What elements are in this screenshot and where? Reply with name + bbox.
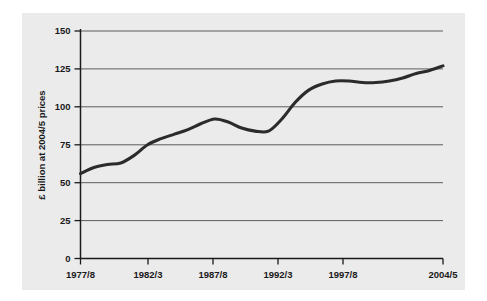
y-tick-label: 50	[60, 177, 71, 188]
y-axis-label: £ billion at 2004/5 prices	[36, 90, 47, 199]
y-tick-label: 100	[55, 101, 71, 112]
y-tick-label: 25	[60, 215, 71, 226]
x-tick-label: 1992/3	[263, 269, 292, 280]
y-tick-label: 75	[60, 139, 71, 150]
x-tick-group: 1977/81982/31987/81992/31997/82004/5	[66, 259, 458, 280]
y-tick-label: 150	[55, 25, 71, 36]
y-tick-label: 125	[55, 63, 72, 74]
y-tick-label: 0	[65, 253, 70, 264]
data-series-line	[81, 66, 444, 174]
chart-plot: 0255075100125150 1977/81982/31987/81992/…	[0, 0, 487, 301]
chart-figure: 0255075100125150 1977/81982/31987/81992/…	[0, 0, 487, 301]
gridlines-group	[81, 31, 444, 221]
x-tick-label: 1987/8	[198, 269, 227, 280]
x-tick-label: 1977/8	[66, 269, 95, 280]
x-tick-label: 2004/5	[428, 269, 458, 280]
y-tick-group: 0255075100125150	[55, 25, 81, 264]
x-tick-label: 1982/3	[133, 269, 162, 280]
x-tick-label: 1997/8	[328, 269, 357, 280]
